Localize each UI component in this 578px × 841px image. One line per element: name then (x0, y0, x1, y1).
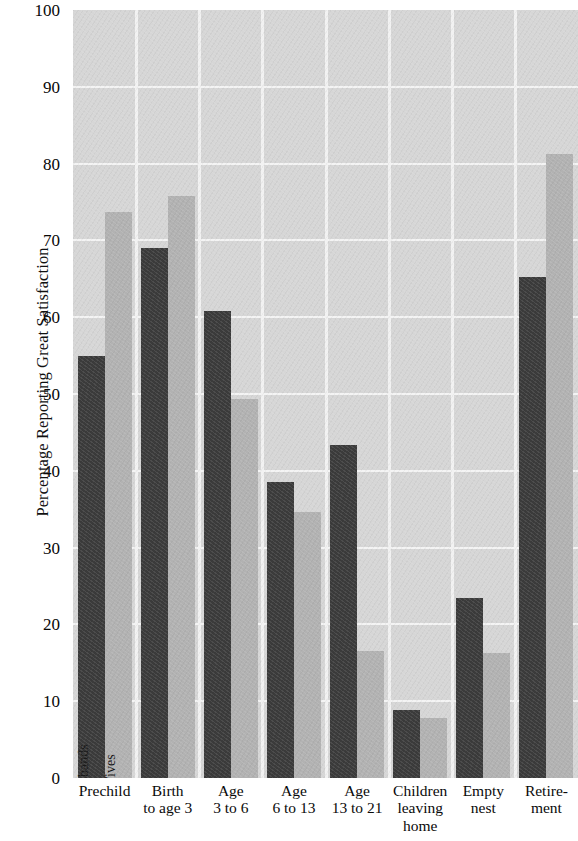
bar-husbands (456, 598, 483, 778)
vertical-gridline (514, 10, 517, 778)
bar-husbands (204, 311, 231, 778)
series-label-husbands: Husbands (77, 744, 91, 778)
vertical-gridline (325, 10, 328, 778)
chart-figure: Percentage Reporting Great Satisfaction … (0, 0, 578, 841)
plot-area: HusbandsWives (73, 10, 578, 778)
y-axis-tick-label: 50 (43, 386, 60, 403)
vertical-gridline (261, 10, 264, 778)
x-axis-tick-label-line: home (383, 817, 458, 834)
bar-wives: Wives (105, 212, 132, 778)
bar-wives (294, 512, 321, 778)
bar-husbands: Husbands (78, 356, 105, 778)
y-axis-tick-label: 10 (43, 693, 60, 710)
vertical-gridline (388, 10, 391, 778)
y-axis-tick-label: 0 (52, 770, 61, 787)
y-axis-tick-labels: 0102030405060708090100 (0, 0, 68, 841)
x-axis-tick-label-line: Retire- (509, 782, 578, 799)
y-axis-tick-label: 30 (43, 539, 60, 556)
vertical-gridline (198, 10, 201, 778)
y-axis-tick-label: 80 (43, 155, 60, 172)
bar-husbands (393, 710, 420, 778)
vertical-gridline (135, 10, 138, 778)
bar-husbands (141, 248, 168, 778)
bar-wives (483, 653, 510, 778)
bar-wives (420, 718, 447, 778)
bar-husbands (267, 482, 294, 778)
y-axis-tick-label: 60 (43, 309, 60, 326)
y-axis-tick-label: 100 (35, 2, 61, 19)
series-label-wives: Wives (104, 754, 118, 778)
x-axis-tick-label: Retire-ment (509, 782, 578, 817)
bar-wives (357, 651, 384, 778)
x-axis-tick-labels: PrechildBirthto age 3Age3 to 6Age6 to 13… (73, 782, 578, 841)
bar-wives (231, 399, 258, 778)
bar-wives (168, 196, 195, 778)
bar-husbands (519, 277, 546, 779)
y-axis-tick-label: 90 (43, 78, 60, 95)
y-axis-tick-label: 40 (43, 462, 60, 479)
x-axis-tick-label-line: ment (509, 799, 578, 816)
vertical-gridline (451, 10, 454, 778)
bar-wives (546, 154, 573, 778)
bar-husbands (330, 445, 357, 778)
y-axis-tick-label: 20 (43, 616, 60, 633)
y-axis-tick-label: 70 (43, 232, 60, 249)
